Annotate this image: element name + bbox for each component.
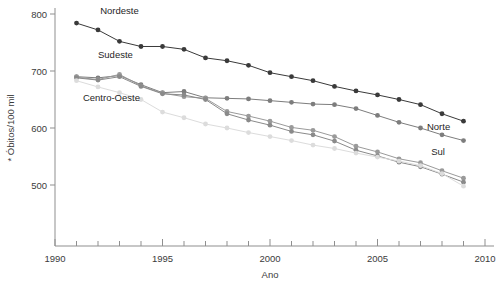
data-point <box>440 171 445 176</box>
y-tick-label: 600 <box>31 123 47 134</box>
data-point <box>397 97 402 102</box>
x-tick-label: 2000 <box>259 253 280 264</box>
data-point <box>311 128 316 133</box>
data-point <box>289 74 294 79</box>
series-label-norte: Norte <box>427 121 450 132</box>
data-point <box>311 132 316 137</box>
data-point <box>440 111 445 116</box>
data-point <box>182 93 187 98</box>
data-point <box>246 118 251 123</box>
data-point <box>160 44 165 49</box>
line-chart: NordesteSudesteCentro-OesteNorteSul 5006… <box>0 0 498 284</box>
data-point <box>96 78 101 83</box>
x-tick-label: 2010 <box>474 253 495 264</box>
data-point <box>268 98 273 103</box>
data-point <box>96 28 101 33</box>
series-label-centro-oeste: Centro-Oeste <box>83 92 140 103</box>
data-point <box>461 184 466 189</box>
data-point <box>375 155 380 160</box>
data-point <box>289 129 294 134</box>
data-point <box>354 151 359 156</box>
data-point <box>289 138 294 143</box>
y-tick-label: 500 <box>31 180 47 191</box>
series-label-sudeste: Sudeste <box>98 49 133 60</box>
data-point <box>74 78 79 83</box>
series-sudeste <box>74 73 466 143</box>
data-point <box>225 111 230 116</box>
x-tick-label: 1990 <box>44 253 65 264</box>
y-tick-label: 700 <box>31 66 47 77</box>
data-point <box>440 132 445 137</box>
data-point <box>332 139 337 144</box>
data-point <box>96 85 101 90</box>
data-point <box>182 47 187 52</box>
data-point <box>375 113 380 118</box>
data-point <box>160 91 165 96</box>
data-point <box>354 106 359 111</box>
series-lines <box>74 21 466 189</box>
data-point <box>203 97 208 102</box>
data-point <box>311 143 316 148</box>
data-point <box>332 102 337 107</box>
data-point <box>246 97 251 102</box>
data-point <box>182 115 187 120</box>
data-point <box>268 123 273 128</box>
data-point <box>461 119 466 124</box>
chart-canvas: NordesteSudesteCentro-OesteNorteSul 5006… <box>0 0 498 284</box>
data-point <box>332 84 337 89</box>
data-point <box>354 89 359 94</box>
data-point <box>225 58 230 63</box>
data-point <box>139 44 144 49</box>
data-point <box>311 78 316 83</box>
data-point <box>246 130 251 135</box>
data-point <box>397 120 402 125</box>
y-axis-title: * Óbitos/100 mil <box>5 94 16 161</box>
data-point <box>397 159 402 164</box>
data-point <box>332 134 337 139</box>
series-annotations: NordesteSudesteCentro-OesteNorteSul <box>83 5 450 157</box>
data-point <box>225 126 230 131</box>
data-point <box>246 63 251 68</box>
data-point <box>461 138 466 143</box>
data-point <box>418 102 423 107</box>
axis-text: 50060070080019901995200020052010Ano* Óbi… <box>5 9 496 281</box>
data-point <box>203 122 208 127</box>
series-label-sul: Sul <box>431 146 445 157</box>
data-point <box>311 102 316 107</box>
series-nordeste <box>74 21 466 124</box>
data-point <box>117 39 122 44</box>
data-point <box>74 21 79 26</box>
x-tick-label: 2005 <box>367 253 388 264</box>
data-point <box>375 93 380 98</box>
data-point <box>289 100 294 105</box>
data-point <box>225 96 230 101</box>
data-point <box>418 163 423 168</box>
data-point <box>418 126 423 131</box>
data-point <box>203 55 208 60</box>
data-point <box>139 84 144 89</box>
data-point <box>268 134 273 139</box>
series-line <box>77 76 464 141</box>
data-point <box>160 110 165 115</box>
y-tick-label: 800 <box>31 9 47 20</box>
series-label-nordeste: Nordeste <box>100 5 139 16</box>
data-point <box>268 70 273 75</box>
x-axis-title: Ano <box>262 269 279 280</box>
x-tick-label: 1995 <box>152 253 173 264</box>
data-point <box>117 74 122 79</box>
data-point <box>332 146 337 151</box>
